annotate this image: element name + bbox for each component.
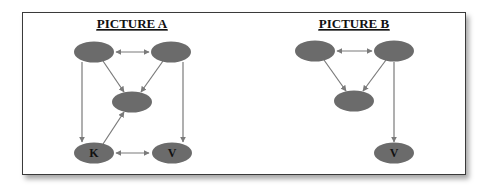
node-b-middle	[334, 91, 374, 112]
node-a-k-label: K	[89, 146, 99, 160]
node-b-top-left	[295, 41, 335, 62]
picture-a: PICTURE A K V	[74, 16, 192, 164]
edge-a-tl-mid	[103, 61, 124, 92]
edge-b-tl-mid	[324, 60, 346, 91]
edge-a-tr-mid	[141, 61, 163, 92]
node-a-top-left	[74, 42, 114, 63]
node-a-middle	[112, 92, 152, 113]
causal-diagram: PICTURE A K V PICTURE B V	[0, 0, 491, 187]
edge-a-k-mid	[103, 112, 124, 144]
node-b-top-right	[374, 41, 414, 62]
edge-b-tr-mid	[363, 60, 386, 91]
node-b-v-label: V	[390, 146, 399, 160]
picture-a-title: PICTURE A	[97, 16, 168, 31]
node-a-v-label: V	[168, 146, 177, 160]
node-a-top-right	[151, 42, 191, 63]
picture-b-title: PICTURE B	[319, 16, 390, 31]
picture-b: PICTURE B V	[295, 16, 414, 164]
